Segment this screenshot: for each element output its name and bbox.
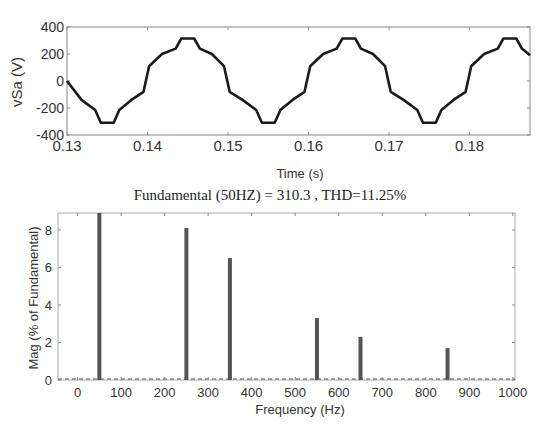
harmonic-bar xyxy=(228,258,232,380)
x-tick-label: 0.18 xyxy=(455,137,484,154)
y-tick-label: 2 xyxy=(45,335,52,350)
y-tick-label: 0 xyxy=(45,373,52,388)
y-tick-label: 4 xyxy=(45,298,52,313)
y-tick-label: -400 xyxy=(36,127,64,143)
x-tick-label: 800 xyxy=(415,385,437,400)
x-tick-label: 1000 xyxy=(498,385,527,400)
voltage-waveform xyxy=(67,39,530,123)
x-tick-label: 600 xyxy=(328,385,350,400)
top-axes-box xyxy=(67,27,530,135)
x-tick-label: 500 xyxy=(284,385,306,400)
x-tick-label: 100 xyxy=(110,385,132,400)
x-tick-label: 900 xyxy=(458,385,480,400)
y-tick-label: 6 xyxy=(45,260,52,275)
y-tick-label: 8 xyxy=(45,223,52,238)
x-tick-label: 400 xyxy=(241,385,263,400)
harmonic-bar xyxy=(97,213,101,380)
x-tick-label: 0.15 xyxy=(213,137,242,154)
harmonic-bar xyxy=(184,228,188,380)
x-tick-label: 700 xyxy=(371,385,393,400)
x-tick-label: 0.16 xyxy=(294,137,323,154)
x-tick-label: 0 xyxy=(74,385,81,400)
x-tick-label: 0.14 xyxy=(133,137,162,154)
y-tick-label: -200 xyxy=(36,100,64,116)
time-domain-plot: 0.130.140.150.160.170.184002000-200-400 xyxy=(36,19,530,154)
bottom-ylabel: Mag (% of Fundamental) xyxy=(26,226,41,369)
figure: 0.130.140.150.160.170.184002000-200-400 … xyxy=(0,0,547,437)
y-tick-label: 400 xyxy=(41,19,65,35)
top-xlabel: Time (s) xyxy=(276,166,323,181)
x-tick-label: 300 xyxy=(197,385,219,400)
y-tick-label: 200 xyxy=(41,46,65,62)
spectrum-title: Fundamental (50HZ) = 310.3 , THD=11.25% xyxy=(134,187,407,204)
harmonic-bar xyxy=(446,348,450,380)
x-tick-label: 0.17 xyxy=(374,137,403,154)
x-tick-label: 200 xyxy=(154,385,176,400)
bottom-xlabel: Frequency (Hz) xyxy=(255,402,345,417)
top-ylabel: vSa (V) xyxy=(8,57,25,107)
harmonic-bar xyxy=(315,318,319,380)
harmonic-spectrum-plot: 0100200300400500600700800900100002468 xyxy=(45,213,528,400)
harmonic-bar xyxy=(358,337,362,380)
y-tick-label: 0 xyxy=(56,73,64,89)
